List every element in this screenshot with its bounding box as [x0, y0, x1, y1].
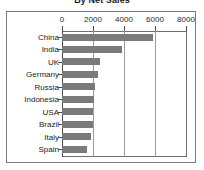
gridline-4000 [124, 31, 125, 157]
y-tick-label-germany: Germany [26, 70, 59, 79]
x-axis-tick-labels: 0 2000 4000 6000 8000 [0, 14, 204, 26]
y-tick-label-usa: USA [43, 108, 59, 117]
bar-india [62, 46, 122, 53]
x-tick-label-3: 6000 [146, 14, 164, 26]
gridline-8000 [186, 31, 187, 157]
gridline-6000 [155, 31, 156, 157]
bar-russia [62, 83, 95, 90]
x-tick-label-2: 4000 [115, 14, 133, 26]
chart-title: By Net Sales [0, 0, 204, 6]
chart-figure: By Net Sales 0 2000 4000 6000 8000 China… [0, 0, 204, 170]
y-tick-label-spain: Spain [39, 145, 59, 154]
x-tick-label-1: 2000 [84, 14, 102, 26]
x-tick-label-0: 0 [60, 14, 64, 26]
bar-indonesia [62, 96, 94, 103]
bar-china [62, 34, 153, 41]
bar-italy [62, 133, 91, 140]
y-tick-label-indonesia: Indonesia [24, 95, 59, 104]
bar-usa [62, 108, 93, 115]
bar-uk [62, 58, 100, 65]
y-tick-label-china: China [38, 33, 59, 42]
bar-brazil [62, 121, 93, 128]
y-tick-label-india: India [42, 45, 59, 54]
x-tick-label-4: 8000 [177, 14, 195, 26]
bar-germany [62, 71, 98, 78]
y-tick-label-brazil: Brazil [39, 120, 59, 129]
y-tick-label-russia: Russia [35, 83, 59, 92]
y-tick-label-italy: Italy [44, 133, 59, 142]
bar-spain [62, 146, 87, 153]
